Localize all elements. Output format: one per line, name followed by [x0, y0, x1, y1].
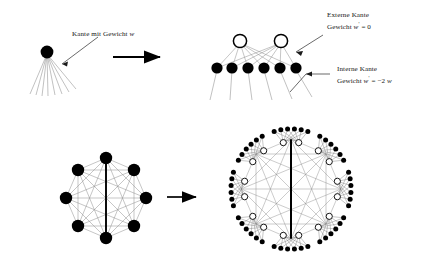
- node-black: [236, 158, 241, 163]
- node-white: [334, 194, 340, 200]
- external-edge-prime: ': [358, 21, 359, 27]
- node-white: [250, 213, 256, 219]
- node-white: [261, 224, 267, 230]
- internal-edge-prime: ': [368, 75, 369, 81]
- node-black: [299, 127, 304, 132]
- node-black: [239, 221, 244, 226]
- node-white: [296, 232, 302, 238]
- node-black: [244, 226, 249, 231]
- node-black: [260, 134, 265, 139]
- node-black: [285, 127, 290, 132]
- node-white: [315, 224, 321, 230]
- node-white: [280, 232, 286, 238]
- node-black: [229, 190, 234, 195]
- external-edge-label: Externe Kante Gewicht w' = 0: [327, 11, 371, 33]
- node-white: [326, 213, 332, 219]
- internal-edge-line1: Interne Kante: [337, 65, 392, 74]
- fan-edges-left: [30, 54, 76, 96]
- node-black: [100, 152, 112, 164]
- node-black: [211, 62, 222, 73]
- node-black: [278, 127, 283, 132]
- node-black: [249, 142, 254, 147]
- diagram-svg: [0, 0, 426, 274]
- node-black: [274, 62, 285, 73]
- node-white: [242, 178, 248, 184]
- top-left-single-node: [30, 46, 76, 96]
- node-white: [326, 159, 332, 165]
- node-black: [290, 62, 301, 73]
- node-black: [278, 246, 283, 251]
- node-black: [229, 176, 234, 181]
- node-black: [254, 236, 259, 241]
- node-black: [285, 246, 290, 251]
- internal-edge-gewicht: Gewicht: [337, 78, 362, 86]
- node-black: [140, 192, 152, 204]
- node-black: [328, 231, 333, 236]
- node-white: [280, 140, 286, 146]
- node-black: [72, 164, 84, 176]
- edge-weight-label: Kante mit Gewicht w: [72, 30, 134, 39]
- node-black: [346, 203, 351, 208]
- internal-edge-var2: w: [387, 78, 392, 86]
- node-black: [348, 176, 353, 181]
- node-black: [41, 46, 54, 59]
- gadget-external-edges: [210, 70, 312, 100]
- external-edge-line2: Gewicht w' = 0: [327, 20, 371, 33]
- node-black: [249, 231, 254, 236]
- bottom-right-expanded-graph: [229, 127, 354, 252]
- node-black: [231, 170, 236, 175]
- node-black: [305, 244, 310, 249]
- node-black: [305, 129, 310, 134]
- external-edge-pointer: [296, 35, 323, 56]
- node-black: [229, 183, 234, 188]
- node-black: [317, 134, 322, 139]
- node-black: [348, 197, 353, 202]
- edge-weight-pointer: [62, 37, 98, 67]
- node-black: [341, 158, 346, 163]
- edge-weight-var: w: [130, 30, 135, 38]
- node-black: [333, 147, 338, 152]
- node-black: [242, 62, 253, 73]
- internal-edge-value: = −2: [371, 78, 385, 86]
- node-black: [254, 137, 259, 142]
- figure-canvas: Kante mit Gewicht w Externe Kante Gewich…: [0, 0, 426, 274]
- node-white: [315, 148, 321, 154]
- node-black: [239, 152, 244, 157]
- node-black: [328, 142, 333, 147]
- node-black: [128, 164, 140, 176]
- node-black: [272, 129, 277, 134]
- node-black: [338, 152, 343, 157]
- node-black: [229, 197, 234, 202]
- node-black: [323, 236, 328, 241]
- node-black: [323, 137, 328, 142]
- node-black: [317, 239, 322, 244]
- node-black: [292, 127, 297, 132]
- node-white: [296, 140, 302, 146]
- internal-edge-line2: Gewicht w' = −2 w: [337, 74, 392, 87]
- node-white: [334, 178, 340, 184]
- external-edge-value: = 0: [361, 24, 371, 32]
- node-black: [346, 170, 351, 175]
- node-black: [72, 220, 84, 232]
- external-edge-line1: Externe Kante: [327, 11, 371, 20]
- node-black: [258, 62, 269, 73]
- bottom-left-complete-graph: [60, 152, 152, 244]
- node-black: [236, 215, 241, 220]
- node-black: [128, 220, 140, 232]
- external-edge-gewicht: Gewicht: [327, 24, 352, 32]
- internal-edge-label: Interne Kante Gewicht w' = −2 w: [337, 65, 392, 87]
- node-black: [299, 246, 304, 251]
- node-black: [60, 192, 72, 204]
- node-black: [272, 244, 277, 249]
- node-black: [260, 239, 265, 244]
- node-black: [341, 215, 346, 220]
- node-black: [338, 221, 343, 226]
- node-white: [250, 159, 256, 165]
- top-right-gadget: [210, 34, 312, 100]
- node-black: [226, 62, 237, 73]
- edge-weight-text: Kante mit Gewicht: [72, 30, 128, 38]
- node-black: [231, 203, 236, 208]
- node-white: [274, 34, 287, 47]
- internal-edge-pointer: [290, 72, 330, 92]
- node-black: [292, 246, 297, 251]
